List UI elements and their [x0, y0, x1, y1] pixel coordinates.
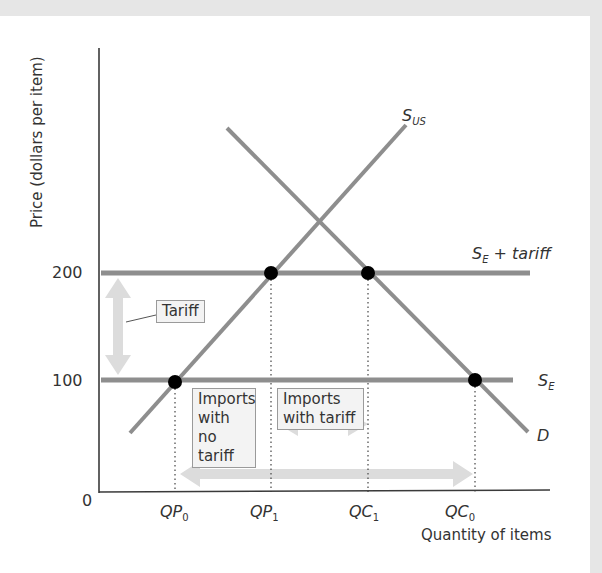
s-us-label: SUS: [402, 108, 426, 124]
point-qc0: [468, 373, 482, 387]
diagram-canvas: [0, 0, 602, 573]
point-qp1: [264, 266, 278, 280]
point-qc1: [361, 266, 375, 280]
imports-with-tariff-callout: Imports with tariff: [277, 388, 364, 430]
s-e-tariff-label: SE + tariff: [472, 246, 551, 262]
point-qp0: [168, 375, 182, 389]
demand-curve: [227, 128, 528, 432]
x-tick-qc1: QC1: [349, 504, 379, 520]
x-tick-qc0: QC0: [445, 504, 475, 520]
y-tick-200: 200: [52, 265, 83, 281]
x-axis-label: Quantity of items: [421, 528, 552, 543]
tariff-arrow: [105, 278, 131, 375]
demand-label: D: [537, 428, 549, 444]
tariff-callout: Tariff: [156, 300, 205, 323]
x-tick-qp1: QP1: [250, 504, 279, 520]
x-axis: [99, 490, 550, 492]
imports-no-tariff-callout: Imports with no tariff: [192, 388, 256, 468]
s-e-label: SE: [538, 373, 554, 389]
x-tick-qp0: QP0: [160, 504, 189, 520]
tariff-leader: [126, 315, 156, 322]
y-axis-label: Price (dollars per item): [28, 56, 46, 228]
y-tick-100: 100: [52, 373, 83, 389]
y-tick-0: 0: [82, 493, 92, 509]
